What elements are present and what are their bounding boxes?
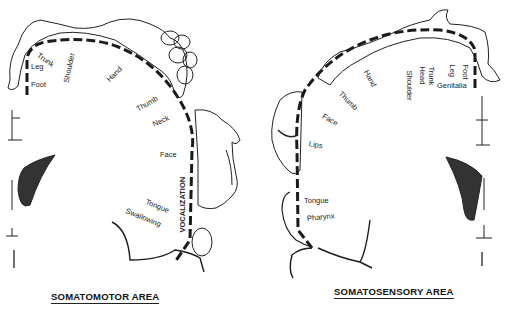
label-sensory-genitalia: Genitalia <box>437 81 467 90</box>
label-sensory-shoulder: Shoulder <box>405 71 414 101</box>
label-motor-face: Face <box>160 150 177 159</box>
sensory-area-title: SOMATOSENSORY AREA <box>334 286 454 299</box>
label-sensory-head: Head <box>418 67 427 85</box>
motor-face <box>195 110 240 209</box>
motor-area-title: SOMATOMOTOR AREA <box>51 291 159 304</box>
label-sensory-trunk: Trunk <box>427 67 436 86</box>
label-sensory-foot: Foot <box>461 65 470 80</box>
label-sensory-leg: Leg <box>448 65 457 78</box>
right-ventricle <box>446 157 482 220</box>
right-lateral-sulcus <box>290 220 370 278</box>
label-motor-vocalization: VOCALIZATION <box>178 177 187 233</box>
label-motor-leg: Leg <box>31 62 44 71</box>
homunculus-diagram <box>0 0 508 313</box>
motor-tongue <box>192 228 212 256</box>
label-sensory-tongue: Tongue <box>304 196 329 205</box>
left-ventricle <box>18 155 55 206</box>
label-motor-foot: Foot <box>31 80 46 89</box>
